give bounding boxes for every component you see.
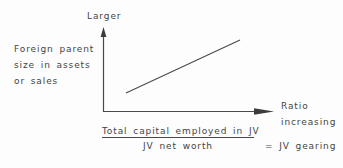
x-axis-description-line: Ratio — [281, 98, 336, 114]
formula-equals-label: = JV gearing — [265, 138, 336, 154]
y-axis-arrowhead — [101, 27, 107, 37]
x-axis-description: Ratio increasing — [281, 98, 336, 130]
formula-numerator: Total capital employed in JV — [102, 126, 254, 137]
diagram-canvas: Larger Foreign parent size in assets or … — [0, 0, 343, 168]
formula-denominator: JV net worth — [102, 138, 254, 151]
x-axis-arrowhead — [254, 108, 274, 115]
gearing-formula: Total capital employed in JV JV net wort… — [102, 126, 254, 151]
trend-line — [126, 40, 240, 93]
x-axis-description-line: increasing — [281, 114, 336, 130]
